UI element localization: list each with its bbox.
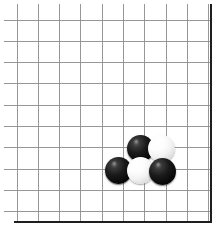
stone-layer [0,0,224,238]
goban[interactable] [0,0,224,238]
go-board-figure [0,0,224,238]
black-stone[interactable] [149,158,176,185]
